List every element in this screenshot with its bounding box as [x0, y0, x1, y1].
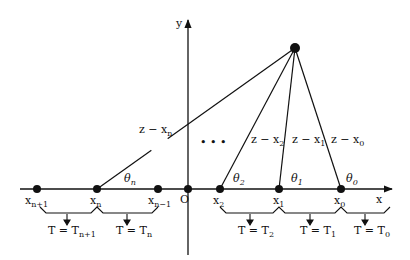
point-xn1 — [33, 185, 41, 193]
segment-label-z-x1: z − x1 — [292, 133, 325, 148]
point-x2 — [216, 185, 224, 193]
y-axis-label: y — [175, 17, 183, 30]
angle-label-theta-n: θn — [124, 172, 136, 187]
point-x1 — [275, 185, 283, 193]
interval-label-2: T = T2 — [238, 224, 274, 239]
point-xn — [93, 185, 101, 193]
interval-label-0: T = T0 — [354, 224, 390, 239]
point-xnm1 — [154, 185, 162, 193]
interval-braces — [40, 207, 390, 213]
point-x0 — [337, 185, 345, 193]
segment-z-x2 — [220, 48, 295, 189]
x-axis-label: x — [376, 193, 383, 206]
interval-label-1: T = T1 — [300, 224, 336, 239]
point-origin — [184, 185, 192, 193]
segment-label-z-x0: z − x0 — [331, 133, 364, 148]
segment-z-x1 — [279, 48, 295, 189]
diagram-canvas: y x O xn+1 xn xn−1 x2 x1 x0 z − xn z − x… — [0, 0, 410, 260]
ellipsis: • • • — [200, 136, 226, 149]
segment-label-z-x2: z − x2 — [251, 133, 284, 148]
angle-label-theta-1: θ1 — [291, 172, 303, 187]
angle-label-theta-0: θ0 — [346, 172, 358, 187]
segment-label-z-xn: z − xn — [139, 123, 172, 138]
label-x0: x0 — [334, 194, 345, 209]
origin-label: O — [180, 193, 189, 206]
interval-label-n1: T = Tn+1 — [48, 224, 96, 239]
label-xn1: xn+1 — [25, 194, 48, 209]
segment-z-xn — [97, 48, 295, 189]
label-xnm1: xn−1 — [148, 194, 171, 209]
interval-label-n: T = Tn — [116, 224, 152, 239]
segment-z-x0 — [295, 48, 341, 189]
label-x2: x2 — [213, 194, 224, 209]
label-xn: xn — [90, 194, 101, 209]
angle-label-theta-2: θ2 — [233, 172, 245, 187]
point-z — [290, 43, 300, 53]
